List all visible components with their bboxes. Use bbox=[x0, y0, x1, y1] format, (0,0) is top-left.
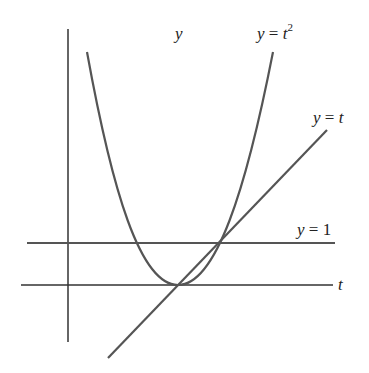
horizontal-line-label: y = 1 bbox=[295, 220, 331, 239]
parabola-label: y = t2 bbox=[255, 21, 293, 43]
vertical-axis-label: y bbox=[173, 24, 183, 43]
parabola-y-equals-t-squared bbox=[87, 52, 273, 285]
line-label: y = t bbox=[311, 108, 345, 127]
horizontal-axis-label: t bbox=[338, 275, 344, 294]
diagram-canvas: y y = t2 y = t y = 1 t bbox=[0, 0, 369, 373]
